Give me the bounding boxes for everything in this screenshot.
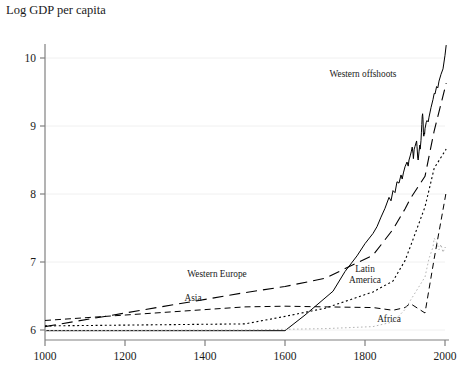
chart-plot-area: 678910 100012001400160018002000 Western … xyxy=(0,0,465,368)
series-line-asia xyxy=(45,192,446,321)
x-tick-label: 2000 xyxy=(434,350,457,362)
y-tick-label: 10 xyxy=(25,52,37,64)
series-lines xyxy=(45,45,446,331)
y-tick-label: 7 xyxy=(30,256,36,268)
x-axis: 100012001400160018002000 xyxy=(34,340,457,362)
series-label-africa: Africa xyxy=(377,314,401,324)
x-tick-label: 1000 xyxy=(34,350,57,362)
x-tick-label: 1800 xyxy=(354,350,377,362)
chart-root: Log GDP per capita 678910 10001200140016… xyxy=(0,0,465,368)
series-annotations: Western offshootsWestern EuropeAsiaLatin… xyxy=(184,69,400,324)
y-tick-label: 9 xyxy=(30,120,36,132)
x-tick-label: 1200 xyxy=(114,350,137,362)
series-label-asia: Asia xyxy=(184,293,201,303)
y-axis: 678910 xyxy=(25,44,46,340)
grid-lines xyxy=(45,58,445,330)
series-label-western-europe: Western Europe xyxy=(187,269,246,279)
x-tick-label: 1400 xyxy=(194,350,217,362)
y-tick-label: 8 xyxy=(30,188,36,200)
series-label-latin-america: LatinAmerica xyxy=(349,264,381,285)
series-line-western-offshoots xyxy=(45,45,446,331)
x-tick-label: 1600 xyxy=(274,350,297,362)
series-label-western-offshoots: Western offshoots xyxy=(330,69,397,79)
y-tick-label: 6 xyxy=(30,324,36,336)
